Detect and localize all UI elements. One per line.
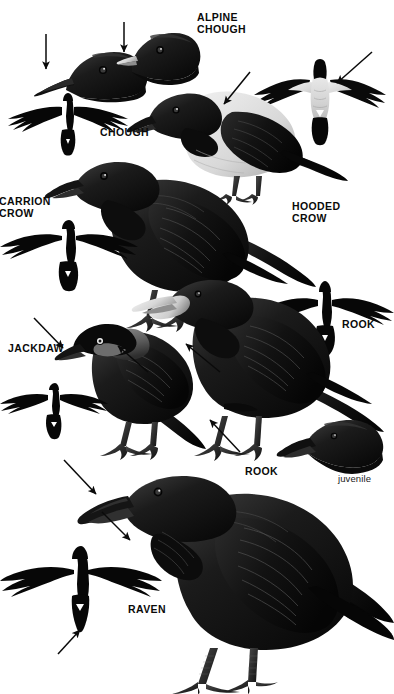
- label-chough: CHOUGH: [100, 127, 149, 139]
- label-rook-perched: ROOK: [245, 466, 278, 478]
- label-carrion-crow: CARRION CROW: [0, 196, 51, 219]
- label-rook-flight: ROOK: [342, 319, 375, 331]
- arrow-rook-face: [186, 344, 220, 372]
- arrow-hooded-crow-back: [224, 72, 250, 104]
- arrow-raven-tail: [58, 630, 80, 654]
- label-juvenile: juvenile: [338, 473, 371, 485]
- arrow-jackdaw-nape: [118, 346, 148, 372]
- arrow-raven-throat: [102, 512, 130, 540]
- bird-identification-plate: ALPINE CHOUGH CHOUGH CARRION CROW HOODED…: [0, 0, 394, 694]
- label-jackdaw: JACKDAW: [8, 343, 64, 355]
- arrow-rook-belly: [210, 420, 240, 452]
- label-hooded-crow: HOODED CROW: [292, 201, 341, 224]
- label-alpine-chough: ALPINE CHOUGH: [197, 12, 246, 35]
- arrow-hooded-crow-flight: [337, 52, 372, 83]
- label-raven: RAVEN: [128, 604, 166, 616]
- arrow-raven-bill: [64, 460, 96, 494]
